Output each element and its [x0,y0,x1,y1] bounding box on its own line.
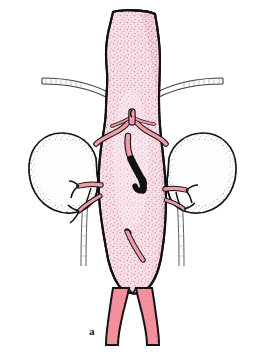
figure-root: a [0,0,265,352]
figure-label: a [89,325,95,337]
anatomical-illustration-svg [0,0,265,352]
